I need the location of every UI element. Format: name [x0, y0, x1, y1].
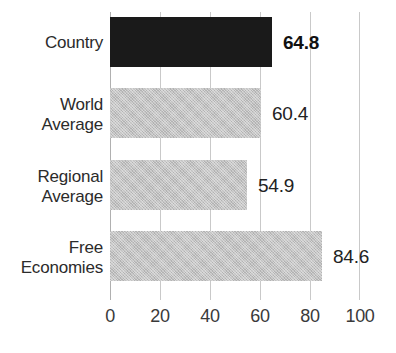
plot-area: [110, 12, 360, 300]
value-label-regional-average: 54.9: [258, 176, 294, 195]
category-label-line: Regional: [0, 167, 103, 187]
value-label-country: 64.8: [283, 33, 319, 52]
category-label-country: Country: [0, 33, 103, 53]
category-label-line: Economies: [0, 258, 103, 278]
xtick-label-20: 20: [150, 306, 169, 326]
bar-regional-average[interactable]: [110, 160, 247, 210]
category-label-line: Country: [0, 33, 103, 53]
category-label-world-average: World Average: [0, 95, 103, 134]
category-label-regional-average: Regional Average: [0, 167, 103, 206]
bar-country[interactable]: [110, 17, 272, 67]
xtick-label-40: 40: [200, 306, 219, 326]
xtick-label-80: 80: [300, 306, 319, 326]
category-label-free-economies: Free Economies: [0, 238, 103, 277]
category-label-line: World: [0, 95, 103, 115]
xtick-label-0: 0: [105, 306, 115, 326]
value-label-world-average: 60.4: [272, 104, 308, 123]
xtick-label-100: 100: [345, 306, 374, 326]
bar-chart: Country World Average Regional Average F…: [0, 0, 396, 353]
xtick-label-60: 60: [250, 306, 269, 326]
category-label-line: Free: [0, 238, 103, 258]
category-label-line: Average: [0, 115, 103, 135]
bar-free-economies[interactable]: [110, 231, 322, 281]
value-label-free-economies: 84.6: [333, 247, 369, 266]
bar-world-average[interactable]: [110, 88, 261, 138]
category-label-line: Average: [0, 187, 103, 207]
